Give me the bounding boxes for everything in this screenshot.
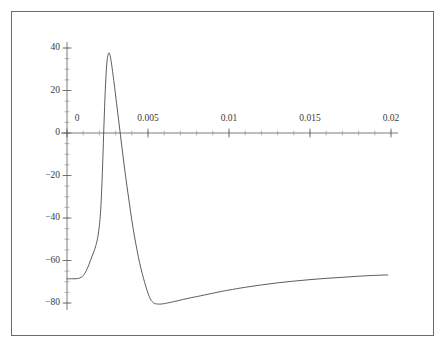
y-tick-label: −60 [20, 256, 60, 266]
figure-container: 00.0050.010.0150.02 40200−20−40−60−80 [0, 0, 446, 347]
x-axis-ticks [67, 129, 391, 138]
y-tick-label: −80 [20, 298, 60, 308]
y-tick-label: −40 [20, 213, 60, 223]
x-axis-group [61, 129, 398, 138]
x-tick-label: 0.005 [118, 114, 178, 124]
membrane-potential-curve [67, 53, 388, 304]
plot-canvas [0, 0, 446, 347]
y-axis-group [63, 42, 72, 310]
x-tick-label: 0 [47, 114, 107, 124]
x-tick-label: 0.015 [280, 114, 340, 124]
y-tick-label: 0 [20, 128, 60, 138]
y-tick-label: 20 [20, 86, 60, 96]
y-tick-label: −20 [20, 171, 60, 181]
x-tick-label: 0.01 [199, 114, 259, 124]
x-tick-label: 0.02 [361, 114, 421, 124]
y-tick-label: 40 [20, 43, 60, 53]
